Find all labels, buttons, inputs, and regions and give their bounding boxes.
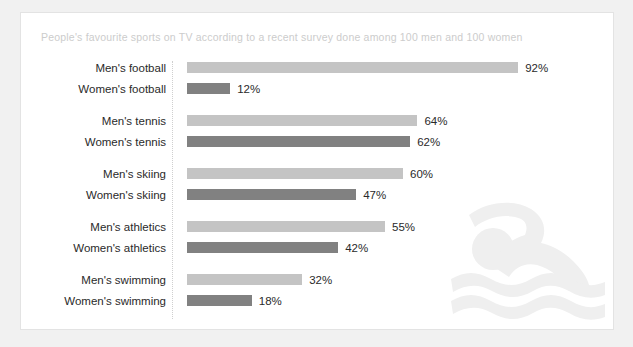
bar-value-label: 42% <box>345 242 368 254</box>
bar-track: 60% <box>187 168 613 179</box>
bar-row-mens-skiing: Men's skiing 60% <box>21 163 613 184</box>
bar-fill <box>187 221 385 232</box>
bar-fill <box>187 274 302 285</box>
bar-track: 42% <box>187 242 613 253</box>
page-title: People's favourite sports on TV accordin… <box>41 31 523 43</box>
bar-value-label: 12% <box>237 83 260 95</box>
bar-track: 55% <box>187 221 613 232</box>
bar-group-athletics: Men's athletics 55% Women's athletics 42… <box>21 216 613 258</box>
bar-fill <box>187 115 417 126</box>
bar-value-label: 64% <box>424 115 447 127</box>
bar-row-womens-athletics: Women's athletics 42% <box>21 237 613 258</box>
bar-value-label: 62% <box>417 136 440 148</box>
bar-label: Women's swimming <box>21 295 166 307</box>
bar-value-label: 47% <box>363 189 386 201</box>
bar-row-womens-swimming: Women's swimming 18% <box>21 290 613 311</box>
bar-label: Men's swimming <box>21 274 166 286</box>
bar-fill <box>187 242 338 253</box>
bar-fill <box>187 189 356 200</box>
bar-group-swimming: Men's swimming 32% Women's swimming 18% <box>21 269 613 311</box>
bar-label: Men's tennis <box>21 115 166 127</box>
bar-track: 12% <box>187 83 613 94</box>
page-root: People's favourite sports on TV accordin… <box>0 0 633 347</box>
chart-card: People's favourite sports on TV accordin… <box>20 12 614 330</box>
bar-track: 64% <box>187 115 613 126</box>
bar-fill <box>187 295 252 306</box>
chart-plot-area: Men's football 92% Women's football 12% <box>21 57 613 329</box>
bar-fill <box>187 62 518 73</box>
bar-label: Women's football <box>21 83 166 95</box>
bar-row-mens-athletics: Men's athletics 55% <box>21 216 613 237</box>
bar-track: 92% <box>187 62 613 73</box>
bar-row-mens-tennis: Men's tennis 64% <box>21 110 613 131</box>
bar-track: 18% <box>187 295 613 306</box>
bar-row-womens-skiing: Women's skiing 47% <box>21 184 613 205</box>
bar-value-label: 32% <box>309 274 332 286</box>
bar-group-skiing: Men's skiing 60% Women's skiing 47% <box>21 163 613 205</box>
bar-row-womens-football: Women's football 12% <box>21 78 613 99</box>
bar-value-label: 55% <box>392 221 415 233</box>
bar-row-mens-swimming: Men's swimming 32% <box>21 269 613 290</box>
bar-row-womens-tennis: Women's tennis 62% <box>21 131 613 152</box>
bar-label: Women's athletics <box>21 242 166 254</box>
bar-value-label: 18% <box>259 295 282 307</box>
bar-track: 32% <box>187 274 613 285</box>
bar-fill <box>187 83 230 94</box>
bar-track: 47% <box>187 189 613 200</box>
bar-value-label: 60% <box>410 168 433 180</box>
bar-group-football: Men's football 92% Women's football 12% <box>21 57 613 99</box>
bar-fill <box>187 168 403 179</box>
bar-row-mens-football: Men's football 92% <box>21 57 613 78</box>
bar-label: Women's tennis <box>21 136 166 148</box>
bar-label: Men's skiing <box>21 168 166 180</box>
bar-value-label: 92% <box>525 62 548 74</box>
bar-group-tennis: Men's tennis 64% Women's tennis 62% <box>21 110 613 152</box>
bar-label: Women's skiing <box>21 189 166 201</box>
bar-label: Men's football <box>21 62 166 74</box>
bar-track: 62% <box>187 136 613 147</box>
bar-label: Men's athletics <box>21 221 166 233</box>
bar-fill <box>187 136 410 147</box>
